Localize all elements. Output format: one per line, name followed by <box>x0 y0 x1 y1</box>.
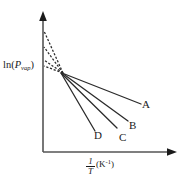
x-axis-label-numerator: 1 <box>86 157 95 166</box>
x-axis-arrowhead <box>167 148 177 156</box>
x-axis-label-denominator: T <box>86 167 95 176</box>
x-axis-label-fraction: 1 T <box>86 157 95 176</box>
vapor-pressure-plot-figure: ln(Pvap) 1 T (K-1) A B C D <box>0 0 189 189</box>
curve-label-d: D <box>94 130 102 141</box>
x-axis-units-close: ) <box>111 159 114 169</box>
curve-label-c: C <box>119 132 126 143</box>
x-axis-units-open: (K <box>96 159 106 169</box>
y-axis-label-prefix: ln( <box>3 59 15 70</box>
y-axis-label-suffix: ) <box>30 59 34 70</box>
x-axis-label-units: (K-1) <box>96 159 114 169</box>
y-axis-label: ln(Pvap) <box>3 60 34 71</box>
x-axis-label: 1 T (K-1) <box>86 157 114 176</box>
curve-A-line <box>62 73 141 104</box>
dashed-extensions-group <box>44 31 63 73</box>
axis-group <box>39 11 177 156</box>
curve-B-line <box>62 73 128 121</box>
curve-label-a: A <box>142 99 150 110</box>
y-axis-arrowhead <box>39 11 47 21</box>
curve-label-b: B <box>129 120 136 131</box>
